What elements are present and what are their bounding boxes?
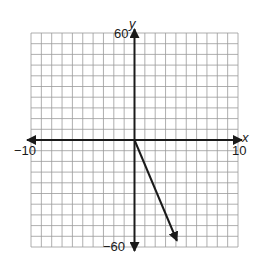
y-min-tick-label: −60: [103, 240, 125, 253]
coordinate-plane: [0, 0, 266, 263]
y-max-tick-label: 60: [114, 27, 128, 40]
x-min-tick-label: −10: [14, 144, 36, 157]
y-axis-label: y: [129, 17, 136, 30]
x-max-tick-label: 10: [232, 144, 246, 157]
